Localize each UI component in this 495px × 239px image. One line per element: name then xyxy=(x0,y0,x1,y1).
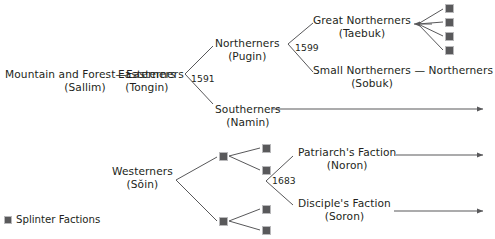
splinter-faction-node xyxy=(445,18,454,27)
node-tongin-romanization: (Tongin) xyxy=(118,81,176,94)
splinter-faction-node xyxy=(445,4,454,13)
node-taebuk: Great Northerners (Taebuk) xyxy=(313,14,411,39)
faction-genealogy-diagram: Mountain and Forest—Easterners (Sallim) … xyxy=(0,0,495,239)
node-namin-romanization: (Namin) xyxy=(215,116,281,129)
node-noron-romanization: (Noron) xyxy=(298,159,396,172)
legend-splinter-square-icon xyxy=(4,216,12,224)
edge-taebuk-splinter-2 xyxy=(418,22,443,24)
node-namin-name: Southerners xyxy=(215,103,281,116)
splinter-faction-node xyxy=(445,46,454,55)
edge-soin-upper-splinter xyxy=(176,157,217,180)
node-soron: Disciple's Faction (Soron) xyxy=(298,197,391,222)
splinter-faction-node xyxy=(219,152,228,161)
edge-taebuk-splinter-4 xyxy=(418,24,443,50)
splinter-faction-node xyxy=(262,226,271,235)
node-tongin: Easterners (Tongin) xyxy=(118,68,176,93)
node-taebuk-name: Great Northerners xyxy=(313,14,411,27)
node-tongin-name: Easterners xyxy=(118,68,176,81)
edge-upper-splinter-a xyxy=(229,148,260,156)
splinter-faction-node xyxy=(262,144,271,153)
node-noron-name: Patriarch's Faction xyxy=(298,146,396,159)
splinter-faction-node xyxy=(262,166,271,175)
date-label-1599: 1599 xyxy=(295,42,319,53)
node-sobuk-romanization: (Sobuk) xyxy=(313,77,431,90)
node-soin-name: Westerners xyxy=(112,165,173,178)
edge-soin-lower-splinter xyxy=(176,180,217,221)
node-sobuk-name: Small Northerners — Northerners xyxy=(313,64,493,77)
edge-lower-splinter-b xyxy=(229,221,260,230)
node-soin-romanization: (Sŏin) xyxy=(112,178,173,191)
edge-upper-splinter-b xyxy=(229,156,260,170)
edge-tongin-pugin xyxy=(185,46,213,74)
node-noron: Patriarch's Faction (Noron) xyxy=(298,146,396,171)
node-soin: Westerners (Sŏin) xyxy=(112,165,173,190)
splinter-faction-node xyxy=(445,32,454,41)
date-label-1683: 1683 xyxy=(272,175,296,186)
edge-pugin-taebuk xyxy=(288,23,313,44)
edge-taebuk-splinter-1 xyxy=(418,9,443,24)
node-pugin: Northerners (Pugin) xyxy=(215,37,280,62)
node-taebuk-romanization: (Taebuk) xyxy=(313,27,411,40)
node-namin: Southerners (Namin) xyxy=(215,103,281,128)
node-pugin-name: Northerners xyxy=(215,37,280,50)
node-soron-name: Disciple's Faction xyxy=(298,197,391,210)
splinter-faction-node xyxy=(219,217,228,226)
node-sobuk: Small Northerners — Northerners (Sobuk) xyxy=(313,64,493,89)
edge-taebuk-splinter-3 xyxy=(418,24,443,36)
node-soron-romanization: (Soron) xyxy=(298,210,391,223)
date-label-1591: 1591 xyxy=(191,73,215,84)
edge-lower-splinter-a xyxy=(229,209,260,221)
legend: Splinter Factions xyxy=(4,214,100,225)
legend-label: Splinter Factions xyxy=(16,214,100,225)
node-pugin-romanization: (Pugin) xyxy=(215,50,280,63)
splinter-faction-node xyxy=(262,205,271,214)
